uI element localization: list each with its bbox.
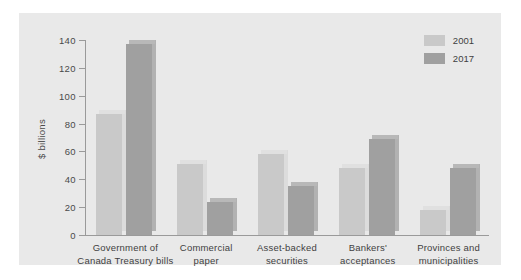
- bar-side-face: [233, 198, 237, 231]
- bar-front-face: [420, 210, 446, 235]
- bar-side-face: [395, 135, 399, 231]
- bar-2001: [96, 114, 122, 235]
- bar-2001: [258, 154, 284, 235]
- legend-label: 2017: [453, 53, 474, 64]
- bar-2001: [339, 168, 365, 235]
- bar-front-face: [258, 154, 284, 235]
- bar-front-face: [369, 139, 395, 235]
- y-tick-label: 0: [70, 230, 76, 241]
- chart-figure: $ billions 020406080100120140 Government…: [19, 13, 501, 265]
- bar-group: [166, 40, 247, 235]
- bar-group: [327, 40, 408, 235]
- bar-group: [247, 40, 328, 235]
- legend-swatch-icon: [424, 53, 445, 64]
- bar-2017: [369, 139, 395, 235]
- y-tick-mark: [79, 235, 85, 236]
- bar-2001: [177, 164, 203, 235]
- bar-2017: [207, 202, 233, 235]
- category-label-line: municipalities: [399, 254, 499, 267]
- legend-item: 2017: [424, 53, 474, 64]
- y-tick-label: 140: [59, 35, 76, 46]
- bar-front-face: [288, 186, 314, 235]
- bar-front-face: [96, 114, 122, 235]
- bar-side-face: [314, 182, 318, 231]
- bar-2017: [126, 44, 152, 235]
- y-tick-label: 40: [65, 174, 76, 185]
- bar-side-face: [152, 40, 156, 231]
- category-label-line: Provinces and: [399, 241, 499, 254]
- legend-swatch-icon: [424, 35, 445, 46]
- category-label: Provinces andmunicipalities: [399, 241, 499, 267]
- bar-front-face: [207, 202, 233, 235]
- bar-2017: [288, 186, 314, 235]
- y-tick-label: 120: [59, 62, 76, 73]
- y-tick-label: 80: [65, 118, 76, 129]
- legend-label: 2001: [453, 35, 474, 46]
- x-axis-line: [85, 235, 489, 236]
- bar-front-face: [177, 164, 203, 235]
- bar-group: [85, 40, 166, 235]
- bar-front-face: [339, 168, 365, 235]
- bar-side-face: [476, 164, 480, 231]
- bar-front-face: [450, 168, 476, 235]
- y-tick-label: 100: [59, 90, 76, 101]
- y-tick-label: 60: [65, 146, 76, 157]
- y-tick-label: 20: [65, 202, 76, 213]
- legend-item: 2001: [424, 35, 474, 46]
- bar-front-face: [126, 44, 152, 235]
- chart-legend: 2001 2017: [424, 35, 474, 71]
- bar-2001: [420, 210, 446, 235]
- bar-2017: [450, 168, 476, 235]
- y-axis-label: $ billions: [36, 119, 47, 159]
